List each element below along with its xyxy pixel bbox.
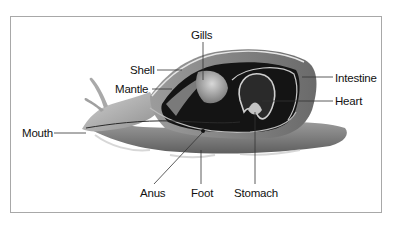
shell-shape: [150, 49, 316, 139]
label-stomach: Stomach: [234, 187, 278, 199]
label-mouth: Mouth: [22, 127, 53, 139]
label-gills: Gills: [191, 29, 212, 41]
label-intestine: Intestine: [335, 72, 377, 84]
label-heart: Heart: [335, 95, 362, 107]
label-shell: Shell: [130, 64, 155, 76]
anus-dot: [201, 129, 205, 133]
label-foot: Foot: [191, 187, 213, 199]
label-mantle: Mantle: [115, 83, 148, 95]
label-anus: Anus: [140, 187, 165, 199]
